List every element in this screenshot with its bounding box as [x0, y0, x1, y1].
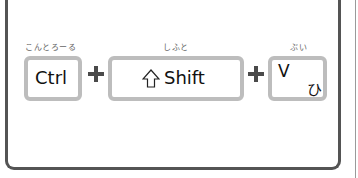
- ctrl-key-label: Ctrl: [35, 67, 67, 88]
- v-furigana: ぶい: [290, 41, 307, 52]
- v-key-kana: ひ: [307, 78, 322, 99]
- panel-edge-divider: [355, 0, 356, 178]
- shift-furigana: しふと: [163, 41, 189, 52]
- ctrl-furigana: こんとろーる: [25, 41, 76, 52]
- shift-arrow-icon: [142, 69, 160, 89]
- plus-icon: [88, 66, 104, 82]
- shift-key: Shift: [108, 56, 244, 101]
- shift-key-label: Shift: [164, 67, 205, 88]
- v-key-label: V: [278, 61, 290, 81]
- plus-icon: [248, 66, 264, 82]
- v-key: V ひ: [268, 56, 327, 101]
- ctrl-key: Ctrl: [24, 56, 82, 101]
